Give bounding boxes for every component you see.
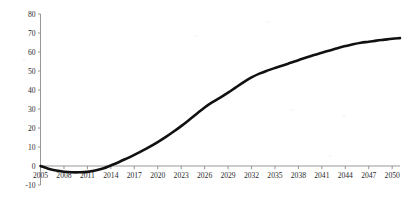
x-tick-label: 2023 [174,171,189,180]
noise-speck [23,59,24,60]
noise-speck [7,95,8,96]
x-tick-label: 2005 [33,171,48,180]
noise-speck [160,16,161,17]
noise-speck [291,109,292,110]
noise-speck [212,92,213,93]
y-tick-label: 10 [28,143,36,152]
x-tick-label: 2038 [291,171,306,180]
noise-speck [356,40,357,41]
series-line-0 [41,38,401,172]
y-tick-label: 80 [28,10,36,19]
y-tick-label: 0 [32,162,36,171]
noise-speck [195,35,196,36]
y-tick-label: -10 [25,181,35,190]
noise-speck [140,118,141,119]
x-tick-label: 2047 [361,171,376,180]
scan-noise [7,16,388,177]
line-chart: -1001020304050607080 2005200820112014201… [0,0,407,200]
noise-speck [76,20,77,21]
x-tick-label: 2032 [244,171,259,180]
x-tick-label: 2026 [197,171,212,180]
x-tick-label: 2014 [103,171,118,180]
noise-speck [120,176,121,177]
noise-speck [343,115,344,116]
noise-speck [267,21,268,22]
x-tick-label: 2035 [267,171,282,180]
y-axis: -1001020304050607080 [25,10,40,190]
y-tick-label: 70 [28,29,36,38]
noise-speck [56,136,57,137]
chart-canvas: -1001020304050607080 2005200820112014201… [0,0,407,200]
x-tick-label: 2050 [385,171,400,180]
x-tick-label: 2020 [150,171,165,180]
noise-speck [246,146,247,147]
x-tick-label: 2029 [220,171,235,180]
series-layer [41,38,401,172]
y-tick-label: 50 [28,67,36,76]
noise-speck [388,130,389,131]
noise-speck [372,64,373,65]
noise-speck [329,155,330,156]
y-tick-label: 20 [28,124,36,133]
y-tick-label: 40 [28,86,36,95]
y-tick-label: 30 [28,105,36,114]
noise-speck [88,58,89,59]
noise-speck [300,76,301,77]
x-tick-label: 2041 [314,171,329,180]
x-tick-label: 2017 [127,171,142,180]
y-tick-label: 60 [28,48,36,57]
x-tick-label: 2044 [338,171,353,180]
